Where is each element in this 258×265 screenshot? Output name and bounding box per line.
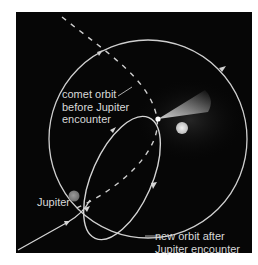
orbit-diagram [0, 0, 258, 265]
orbit-arrow-icon [151, 182, 157, 189]
orbit-arrow-icon [97, 50, 103, 56]
label-line: comet orbit [62, 88, 129, 101]
label-line: before Jupiter [62, 101, 129, 114]
comet-orbit-before-label: comet orbit before Jupiter encounter [62, 88, 129, 126]
new-orbit-label: new orbit after Jupiter encounter [155, 230, 240, 255]
label-line: encounter [62, 113, 129, 126]
sun-icon [176, 122, 188, 134]
label-line: new orbit after [155, 230, 240, 243]
jupiter-icon [69, 191, 80, 202]
label-line: Jupiter encounter [155, 243, 240, 256]
jupiter-label: Jupiter [37, 196, 70, 209]
comet-icon [155, 116, 160, 121]
orbit-arrow-icon [110, 127, 116, 133]
